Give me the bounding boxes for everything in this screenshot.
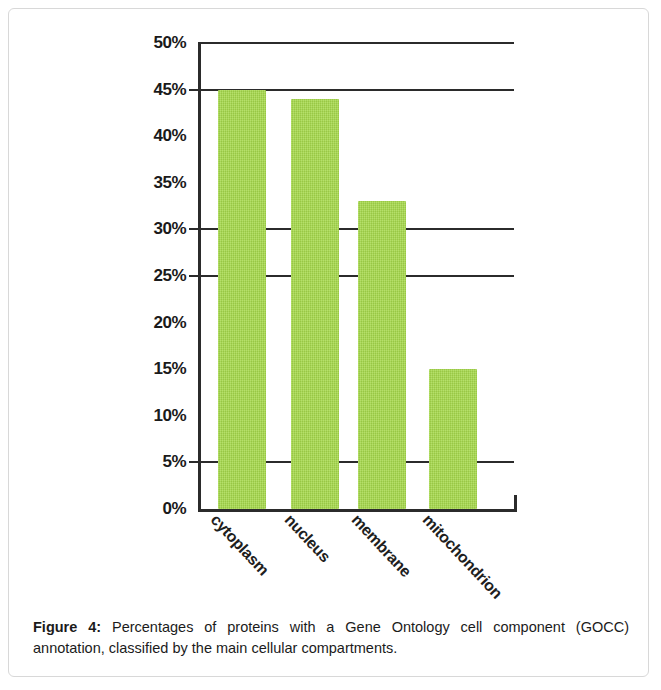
figure-caption-text: Percentages of proteins with a Gene Onto… xyxy=(33,619,629,656)
figure-caption: Figure 4: Percentages of proteins with a… xyxy=(33,617,629,659)
y-axis-tick-label: 15% xyxy=(153,359,186,379)
y-axis-tick-label: 5% xyxy=(162,452,186,472)
y-axis-tick-label: 45% xyxy=(153,80,186,100)
plot-area: 0%5%10%15%20%25%30%35%40%45%50% xyxy=(198,43,514,509)
y-axis-tick-label: 25% xyxy=(153,266,186,286)
y-axis-tick-label: 30% xyxy=(153,219,186,239)
y-axis-tick-label: 40% xyxy=(153,126,186,146)
bar-mitochondrion xyxy=(429,369,477,509)
y-axis-tick-label: 0% xyxy=(162,499,186,519)
x-axis-label-cytoplasm: cytoplasm xyxy=(207,511,272,579)
x-axis-label-mitochondrion: mitochondrion xyxy=(419,511,506,602)
x-axis-category-labels: cytoplasmnucleusmembranemitochondrion xyxy=(198,511,528,606)
bars xyxy=(198,43,514,509)
x-axis-label-membrane: membrane xyxy=(348,511,415,581)
bar-membrane xyxy=(358,201,406,509)
y-axis-tick-label: 35% xyxy=(153,173,186,193)
bar-chart: 0%5%10%15%20%25%30%35%40%45%50% cytoplas… xyxy=(9,9,650,604)
y-axis-tick-label: 20% xyxy=(153,313,186,333)
y-axis-tick-label: 10% xyxy=(153,406,186,426)
figure-panel: 0%5%10%15%20%25%30%35%40%45%50% cytoplas… xyxy=(8,8,649,677)
x-axis-end-cap xyxy=(514,495,517,512)
y-axis-tick-label: 50% xyxy=(153,33,186,53)
x-axis-label-nucleus: nucleus xyxy=(281,511,334,566)
bar-cytoplasm xyxy=(218,90,266,509)
figure-caption-label: Figure 4: xyxy=(33,619,101,635)
bar-nucleus xyxy=(291,99,339,509)
